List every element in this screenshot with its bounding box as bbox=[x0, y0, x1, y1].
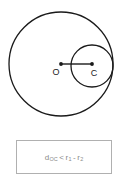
distance-term: dOC bbox=[45, 153, 58, 162]
left-radius-subscript: 1 bbox=[68, 156, 71, 162]
outer-center-point bbox=[59, 62, 63, 66]
distance-subscript: OC bbox=[49, 156, 57, 162]
containment-formula: dOC < r1 - r2 bbox=[45, 153, 84, 162]
left-radius-term: r1 bbox=[66, 153, 72, 162]
inner-center-label: C bbox=[91, 68, 98, 78]
circles-diagram: O C bbox=[0, 0, 128, 130]
diagram-canvas: O C bbox=[0, 0, 128, 130]
outer-center-label: O bbox=[52, 67, 59, 77]
right-radius-subscript: 2 bbox=[80, 156, 83, 162]
figure-root: O C dOC < r1 - r2 bbox=[0, 0, 128, 183]
caption-box: dOC < r1 - r2 bbox=[16, 140, 112, 174]
right-radius-term: r2 bbox=[77, 153, 83, 162]
relation-operator: < bbox=[59, 153, 64, 162]
inner-center-point bbox=[90, 62, 94, 66]
inner-circle bbox=[71, 45, 113, 87]
minus-operator: - bbox=[73, 153, 76, 162]
